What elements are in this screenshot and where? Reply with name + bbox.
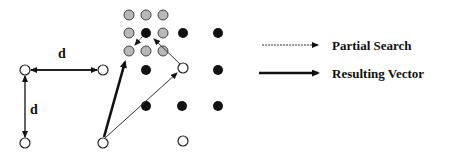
black-node — [141, 101, 151, 111]
black-node — [177, 101, 187, 111]
distance-label-vertical: d — [30, 102, 38, 117]
black-node — [141, 65, 151, 75]
black-node — [213, 65, 223, 75]
gray-node — [158, 28, 168, 38]
partial-search-arrow — [105, 73, 177, 138]
gray-node — [124, 46, 134, 56]
legend-resulting-vector-label: Resulting Vector — [332, 66, 424, 81]
gray-node — [158, 10, 168, 20]
white-node — [20, 65, 30, 75]
white-node — [178, 63, 188, 73]
white-node — [98, 65, 108, 75]
black-node — [213, 28, 223, 38]
black-node — [213, 101, 223, 111]
origin-node — [98, 138, 108, 148]
gray-node — [124, 10, 134, 20]
black-node — [141, 28, 151, 38]
legend-partial-search-label: Partial Search — [332, 38, 412, 53]
distance-label-horizontal: d — [58, 46, 66, 61]
gray-node — [124, 28, 134, 38]
black-node — [178, 28, 188, 38]
partial-search-arrow — [135, 37, 142, 45]
legend: Partial Search Resulting Vector — [259, 38, 424, 81]
gray-node — [141, 10, 151, 20]
search-diagram: d d Partial Search Resulting Vect — [0, 0, 454, 158]
gray-node — [141, 46, 151, 56]
white-node — [178, 136, 188, 146]
white-node — [20, 138, 30, 148]
